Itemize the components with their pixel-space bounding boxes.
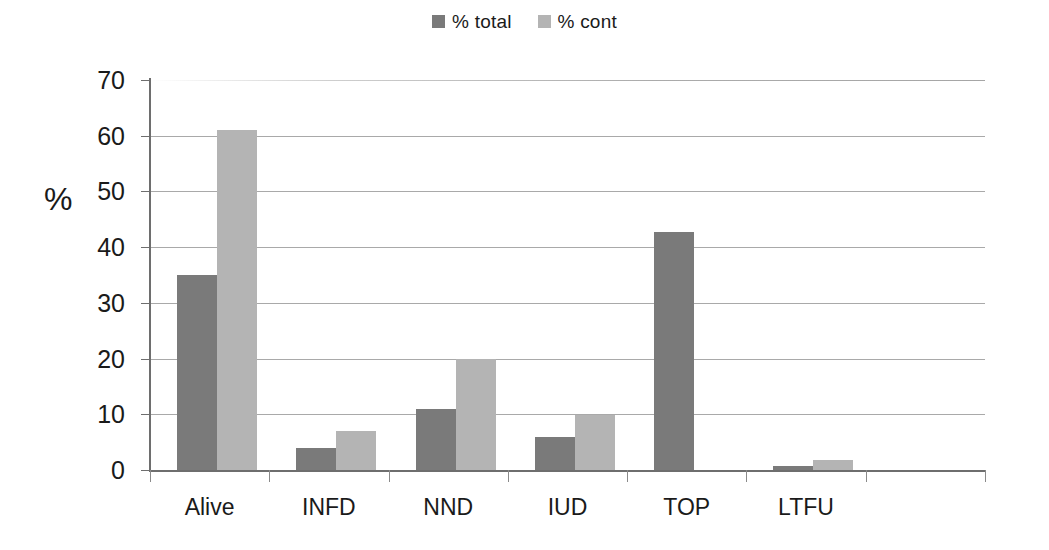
bar-infd-total [296, 448, 336, 470]
legend-item-cont: % cont [538, 12, 617, 31]
x-label-top: TOP [663, 496, 710, 519]
bar-nnd-total [416, 409, 456, 470]
legend-item-total: % total [432, 12, 512, 31]
bar-alive-total [177, 275, 217, 470]
y-tick-label-30: 30 [97, 290, 125, 315]
x-tick-1 [269, 470, 270, 482]
bar-group-nnd: NND [389, 80, 508, 470]
legend-label-cont: % cont [558, 12, 617, 31]
bar-top-total [654, 232, 694, 471]
bar-group-alive: Alive [150, 80, 269, 470]
bar-group-top: TOP [627, 80, 746, 470]
plot-area: 70 60 50 40 30 20 10 0 [150, 80, 985, 470]
y-tick-label-50: 50 [97, 179, 125, 204]
chart-legend: % total % cont [0, 12, 1049, 31]
bar-group-ltfu: LTFU [746, 80, 865, 470]
bar-chart: % total % cont % 70 60 50 40 30 [0, 0, 1049, 550]
x-tick-0 [150, 470, 151, 482]
x-label-ltfu: LTFU [778, 496, 834, 519]
y-tick-label-0: 0 [111, 458, 125, 483]
y-axis-title: % [44, 183, 72, 215]
x-tick-3 [508, 470, 509, 482]
bar-ltfu-cont [813, 460, 853, 470]
legend-label-total: % total [452, 12, 512, 31]
bar-nnd-cont [456, 359, 496, 470]
y-tick-label-70: 70 [97, 68, 125, 93]
x-tick-5 [746, 470, 747, 482]
bar-group-infd: INFD [269, 80, 388, 470]
x-label-infd: INFD [302, 496, 356, 519]
x-label-alive: Alive [185, 496, 235, 519]
x-label-nnd: NND [423, 496, 473, 519]
bar-infd-cont [336, 431, 376, 470]
bar-alive-cont [217, 130, 257, 470]
bar-group-iud: IUD [508, 80, 627, 470]
y-tick-label-20: 20 [97, 346, 125, 371]
bar-ltfu-total [773, 466, 813, 471]
x-tick-2 [389, 470, 390, 482]
x-tick-4 [627, 470, 628, 482]
y-tick-label-10: 10 [97, 402, 125, 427]
x-tick-7 [985, 470, 986, 482]
legend-swatch-total [432, 15, 445, 28]
x-axis-line [149, 470, 985, 472]
y-tick-label-40: 40 [97, 235, 125, 260]
legend-swatch-cont [538, 15, 551, 28]
x-label-iud: IUD [548, 496, 588, 519]
bar-iud-cont [575, 415, 615, 470]
y-tick-label-60: 60 [97, 123, 125, 148]
x-tick-6 [866, 470, 867, 482]
bar-iud-total [535, 437, 575, 470]
